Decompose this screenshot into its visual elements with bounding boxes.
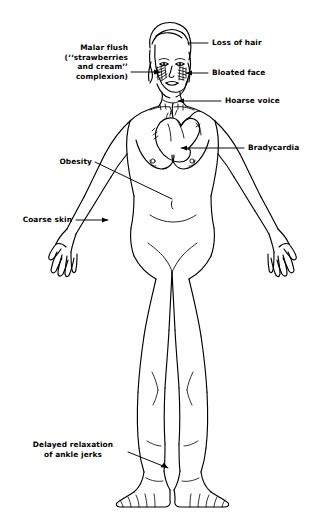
annotation-coarse-skin: Coarse skin (10, 215, 72, 225)
annotation-bloated-face: Bloated face (212, 68, 307, 78)
clinical-figure: Malar flush (‘‘strawberries and cream’’ … (0, 0, 312, 529)
annotation-bradycardia: Bradycardia (248, 143, 312, 153)
annotation-obesity: Obesity (42, 157, 92, 167)
annotation-loss-of-hair: Loss of hair (212, 38, 307, 48)
annotation-malar-flush: Malar flush (‘‘strawberries and cream’’ … (50, 43, 128, 81)
annotation-delayed-relaxation: Delayed relaxation of ankle jerks (20, 440, 126, 459)
annotation-hoarse-voice: Hoarse voice (225, 96, 309, 106)
